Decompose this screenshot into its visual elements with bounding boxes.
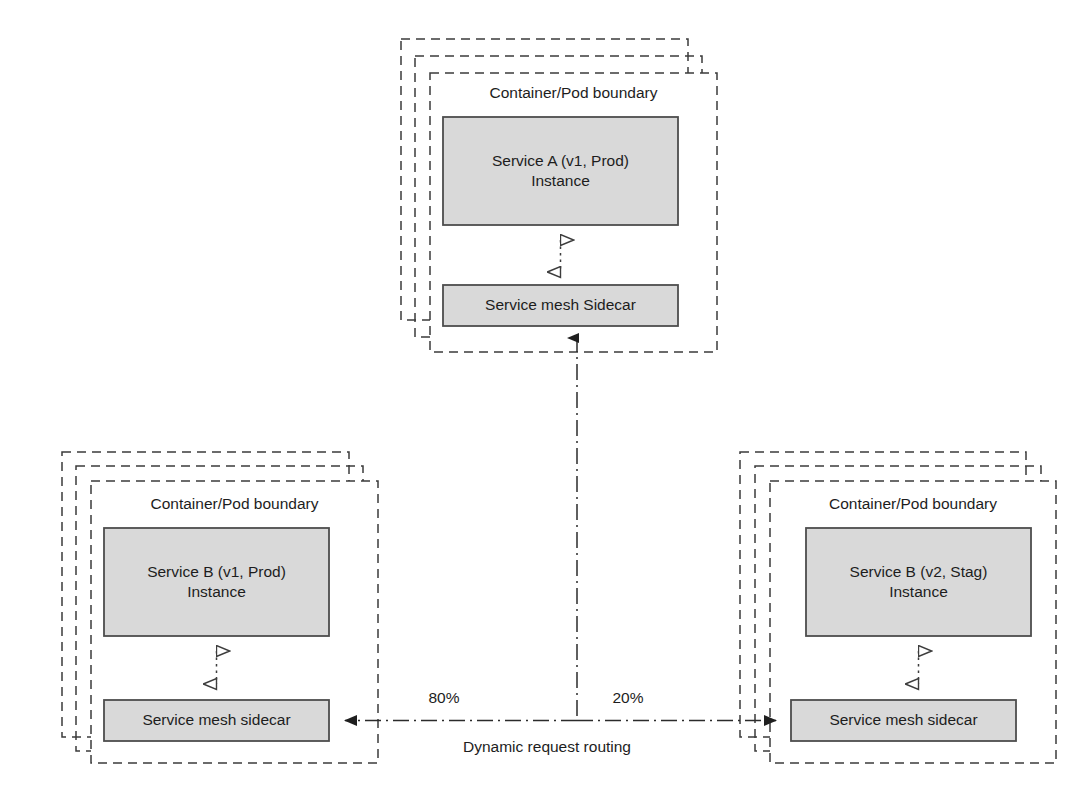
- diagram-canvas: Container/Pod boundary Service A (v1, Pr…: [0, 0, 1089, 803]
- routing-right-share-label: 20%: [588, 689, 668, 707]
- bottom-left-pod-boundary-label: Container/Pod boundary: [91, 495, 378, 513]
- bottom-right-pod-boundary-label: Container/Pod boundary: [770, 495, 1056, 513]
- routing-left-share-label: 80%: [404, 689, 484, 707]
- service-a-label: Service A (v1, Prod) Instance: [443, 117, 678, 225]
- top-pod-boundary-label: Container/Pod boundary: [430, 84, 717, 102]
- top-sidecar-label: Service mesh Sidecar: [443, 285, 678, 326]
- service-b-v2-label: Service B (v2, Stag) Instance: [806, 528, 1031, 636]
- bottom-right-sidecar-label: Service mesh sidecar: [791, 700, 1016, 741]
- bottom-left-sidecar-label: Service mesh sidecar: [104, 700, 329, 741]
- routing-caption: Dynamic request routing: [423, 738, 671, 756]
- service-b-v1-label: Service B (v1, Prod) Instance: [104, 528, 329, 636]
